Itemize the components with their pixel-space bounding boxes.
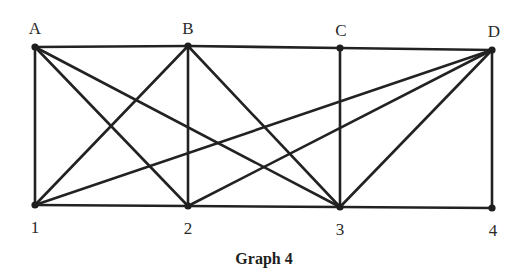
node-1 (31, 201, 38, 208)
node-3 (336, 203, 343, 210)
node-2 (184, 202, 191, 209)
node-label-A: A (29, 19, 42, 38)
graph-caption: Graph 4 (235, 250, 292, 268)
node-C (336, 44, 343, 51)
edge-A-B (35, 46, 188, 47)
edges-layer (35, 46, 492, 208)
node-A (31, 43, 38, 50)
node-D (488, 46, 495, 53)
node-label-2: 2 (184, 219, 193, 238)
node-B (184, 42, 191, 49)
node-label-4: 4 (489, 221, 498, 240)
edge-D-3 (340, 50, 492, 207)
graph-diagram: ABCD1234 Graph 4 (0, 0, 516, 278)
edge-1-2 (35, 205, 188, 206)
node-label-C: C (335, 21, 346, 40)
node-label-3: 3 (336, 220, 345, 239)
edge-2-3 (188, 206, 340, 207)
node-4 (488, 204, 495, 211)
edge-B-C (188, 46, 340, 48)
node-label-B: B (182, 19, 193, 38)
node-label-1: 1 (31, 218, 40, 237)
edge-D-1 (35, 50, 492, 205)
node-label-D: D (488, 22, 500, 41)
edge-C-D (340, 48, 492, 50)
edge-3-4 (340, 207, 492, 208)
